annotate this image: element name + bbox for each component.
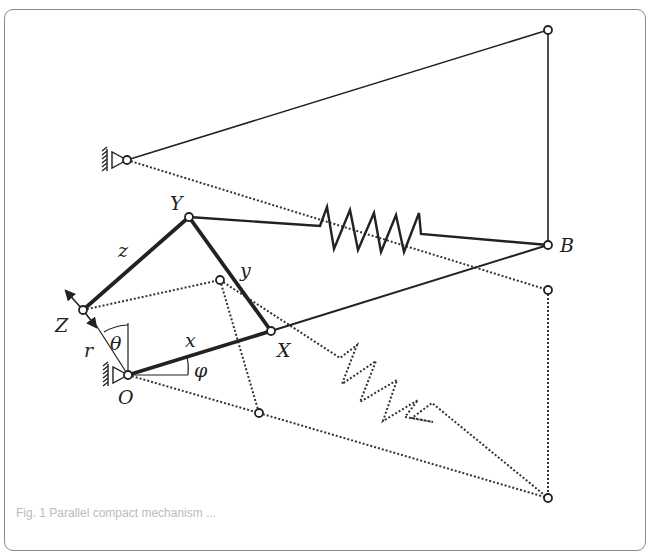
label-r: r bbox=[84, 339, 95, 361]
node-upper-ground bbox=[123, 156, 131, 164]
node-dotted-lower bbox=[255, 409, 263, 417]
link-XB bbox=[271, 245, 548, 331]
node-X bbox=[267, 327, 275, 335]
label-x: x bbox=[185, 329, 196, 351]
label-Z: Z bbox=[54, 314, 69, 336]
label-Y: Y bbox=[170, 192, 185, 214]
node-dotted-right bbox=[544, 286, 552, 294]
node-B bbox=[544, 241, 552, 249]
spring-YB bbox=[189, 207, 548, 252]
node-Y bbox=[185, 213, 193, 221]
node-O bbox=[124, 371, 132, 379]
node-top-right bbox=[544, 26, 552, 34]
label-y: y bbox=[239, 259, 251, 281]
label-B: B bbox=[559, 234, 574, 256]
label-theta: θ bbox=[110, 332, 122, 354]
node-Z bbox=[79, 306, 87, 314]
label-z: z bbox=[117, 239, 129, 261]
label-phi: φ bbox=[194, 359, 208, 381]
dotted-linkage bbox=[83, 160, 548, 498]
label-O: O bbox=[118, 386, 134, 408]
figure-caption: Fig. 1 Parallel compact mechanism ... bbox=[16, 506, 216, 520]
joint-nodes bbox=[79, 26, 552, 502]
label-X: X bbox=[275, 339, 292, 361]
node-dotted-upper bbox=[216, 276, 224, 284]
node-bottom-right bbox=[544, 494, 552, 502]
